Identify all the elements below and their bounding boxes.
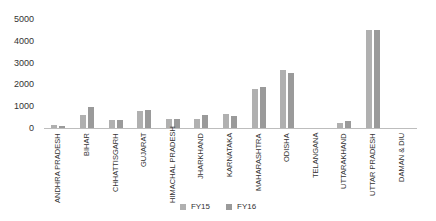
x-tick-label: UTTARAKHAND [340,133,348,203]
y-tick-label: 0 [0,123,34,133]
x-axis-line [44,128,417,129]
bar-fy16 [288,73,294,128]
y-tick-label: 1000 [0,101,34,111]
legend-label-fy16: FY16 [237,202,256,211]
bar-fy16 [59,126,65,128]
bar-fy16 [202,115,208,128]
legend-swatch-fy16 [226,204,232,210]
x-tick-label: MAHARASHTRA [255,133,263,203]
bar-fy16 [88,107,94,128]
x-tick-label: BIHAR [83,133,91,203]
bar-fy15 [137,111,143,128]
x-tick-label: JHARKHAND [197,133,205,203]
bar-chart: 010002000300040005000 ANDHRA PRADESHBIHA… [0,0,436,221]
x-tick-label: KARNATAKA [226,133,234,203]
bar-fy15 [280,70,286,128]
bar-fy15 [80,115,86,128]
x-tick-label: GUJARAT [140,133,148,203]
y-tick-label: 5000 [0,14,34,24]
bar-fy16 [145,110,151,128]
x-tick-label: ODISHA [283,133,291,203]
y-tick-label: 3000 [0,58,34,68]
bar-fy16 [374,30,380,128]
bar-fy15 [51,125,57,128]
bar-fy15 [194,119,200,128]
bar-fy15 [223,114,229,128]
x-tick-label: HIMACHAL PRADESH [169,133,177,203]
bar-fy16 [260,87,266,128]
bar-fy15 [252,89,258,128]
y-tick-label: 2000 [0,79,34,89]
bar-fy15 [337,123,343,128]
y-tick-label: 4000 [0,36,34,46]
bar-fy16 [231,116,237,128]
bar-fy15 [109,120,115,128]
x-tick-label: CHHATTISGARH [112,133,120,203]
bar-fy16 [117,120,123,128]
legend: FY15 FY16 [0,202,436,211]
x-tick-label: ANDHRA PRADESH [54,133,62,203]
legend-label-fy15: FY15 [191,202,210,211]
legend-item-fy15: FY15 [180,202,210,211]
legend-item-fy16: FY16 [226,202,256,211]
legend-swatch-fy15 [180,204,186,210]
x-tick-label: TELANGANA [312,133,320,203]
x-tick-label: UTTAR PRADESH [369,133,377,203]
bar-fy15 [366,30,372,128]
bar-fy16 [345,121,351,128]
x-tick-label: DAMAN & DIU [398,133,406,203]
